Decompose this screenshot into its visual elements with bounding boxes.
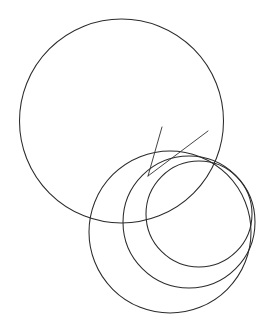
geometry-drawing <box>0 0 276 331</box>
small-circle-lower-left <box>89 151 251 313</box>
diagonal-radiating-line <box>148 131 208 176</box>
small-circle-outer-right <box>146 161 252 267</box>
figure-canvas <box>0 0 276 331</box>
large-circle <box>20 19 224 223</box>
